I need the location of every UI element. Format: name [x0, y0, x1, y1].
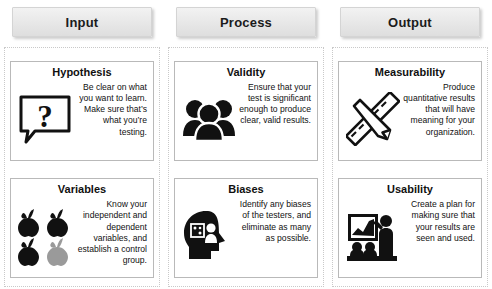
card-description: Be clear on what you want to learn. Make…: [74, 80, 148, 138]
header-cell-input: Input: [0, 0, 164, 47]
header-cell-process: Process: [164, 0, 328, 47]
card-measurability[interactable]: Measurability: [338, 61, 482, 161]
card-body: Know your independent and dependent vari…: [16, 197, 148, 277]
card-description: Ensure that your test is significant eno…: [238, 80, 312, 127]
card-title: Usability: [344, 183, 476, 196]
card-body: ? Be clear on what you want to learn. Ma…: [16, 80, 148, 160]
card-body: Create a plan for making sure that your …: [344, 197, 476, 277]
matrix-diagram: Input Process Output Hypothesis: [0, 0, 492, 289]
card-body: Produce quantitative results that will h…: [344, 80, 476, 160]
card-title: Biases: [180, 183, 312, 196]
card-title: Measurability: [344, 66, 476, 79]
apples-icon: [16, 197, 74, 275]
grid-cell-measurability: Measurability: [328, 52, 492, 170]
speech-bubble-question-icon: ?: [16, 80, 74, 158]
grid-cell-hypothesis: Hypothesis ? Be clear on what you want t…: [0, 52, 164, 170]
grid-cell-biases: Biases: [164, 170, 328, 288]
header-chip-process[interactable]: Process: [176, 7, 316, 37]
card-title: Variables: [16, 183, 148, 196]
header-label-process: Process: [220, 15, 272, 30]
people-group-icon: [180, 80, 238, 158]
card-grid: Hypothesis ? Be clear on what you want t…: [0, 52, 492, 287]
header-label-input: Input: [66, 15, 99, 30]
card-description: Produce quantitative results that will h…: [402, 80, 476, 138]
card-description: Identify any biases of the testers, and …: [238, 197, 312, 244]
presentation-icon: [344, 197, 402, 275]
card-variables[interactable]: Variables: [10, 178, 154, 278]
header-row: Input Process Output: [0, 0, 492, 47]
head-dice-icon: [180, 197, 238, 275]
grid-cell-usability: Usability: [328, 170, 492, 288]
card-usability[interactable]: Usability: [338, 178, 482, 278]
svg-text:?: ?: [37, 99, 53, 134]
card-description: Know your independent and dependent vari…: [74, 197, 148, 266]
header-cell-output: Output: [328, 0, 492, 47]
card-row-top: Hypothesis ? Be clear on what you want t…: [0, 52, 492, 170]
card-row-bottom: Variables: [0, 170, 492, 288]
card-biases[interactable]: Biases: [174, 178, 318, 278]
ruler-pencil-icon: [344, 80, 402, 158]
header-label-output: Output: [388, 15, 432, 30]
card-body: Identify any biases of the testers, and …: [180, 197, 312, 277]
card-validity[interactable]: Validity Ensure tha: [174, 61, 318, 161]
card-title: Validity: [180, 66, 312, 79]
card-description: Create a plan for making sure that your …: [402, 197, 476, 244]
header-chip-output[interactable]: Output: [340, 7, 480, 37]
card-body: Ensure that your test is significant eno…: [180, 80, 312, 160]
grid-cell-validity: Validity Ensure tha: [164, 52, 328, 170]
card-title: Hypothesis: [16, 66, 148, 79]
header-chip-input[interactable]: Input: [12, 7, 152, 37]
card-hypothesis[interactable]: Hypothesis ? Be clear on what you want t…: [10, 61, 154, 161]
grid-cell-variables: Variables: [0, 170, 164, 288]
